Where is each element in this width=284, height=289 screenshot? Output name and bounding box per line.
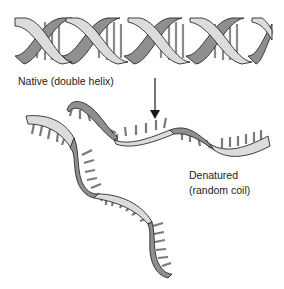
denatured-label: Denatured (random coil) <box>189 168 250 198</box>
double-helix <box>15 18 272 64</box>
denatured-label-line1: Denatured <box>189 168 250 183</box>
single-strand-horizontal <box>67 102 270 157</box>
strand-a-ribbon-dark <box>67 102 118 140</box>
denatured-label-line2: (random coil) <box>189 183 250 198</box>
strand-a-ribbon-dark-2 <box>170 128 214 150</box>
strand-b-ribbon-dark <box>70 138 98 198</box>
strand-a-bases <box>70 108 261 148</box>
strand-a-ribbon-light <box>114 130 174 146</box>
denaturation-arrow <box>150 78 160 119</box>
strand-b-ribbon-light-2 <box>94 194 152 224</box>
dna-denaturation-diagram <box>0 0 284 289</box>
native-label: Native (double helix) <box>18 74 114 89</box>
